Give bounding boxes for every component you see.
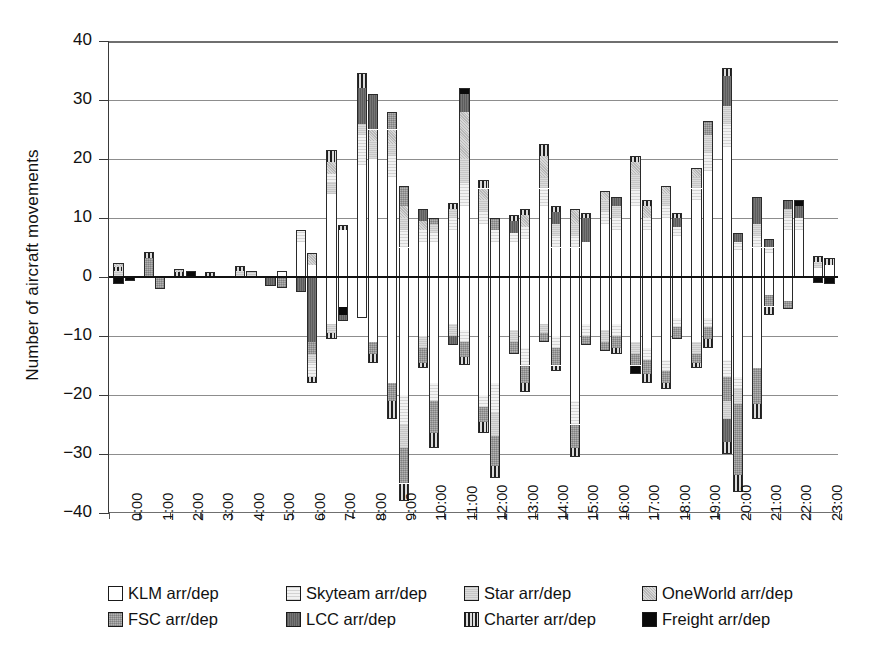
bar-segment <box>570 448 580 457</box>
bar-segment <box>611 277 621 324</box>
legend-item-oneworld[interactable]: OneWorld arr/dep <box>642 584 793 603</box>
bar-segment <box>691 277 701 342</box>
bar-segment <box>113 277 123 284</box>
bar-segment <box>764 307 774 316</box>
bar-segment <box>661 277 671 360</box>
legend-item-freight[interactable]: Freight arr/dep <box>642 610 770 629</box>
x-axis-label: 11:00 <box>464 486 480 521</box>
bar-segment <box>326 324 336 333</box>
bar-segment <box>368 277 378 342</box>
y-axis-label: −20 <box>0 384 92 404</box>
legend-item-lcc[interactable]: LCC arr/dep <box>286 610 396 629</box>
y-axis-label: −30 <box>0 443 92 463</box>
y-tick <box>99 277 109 278</box>
bar-segment <box>418 348 428 363</box>
bar-segment <box>509 342 519 354</box>
bar-segment <box>429 383 439 401</box>
y-axis-label: 40 <box>0 30 92 50</box>
legend-item-star[interactable]: Star arr/dep <box>464 584 571 603</box>
plot-area <box>108 41 838 513</box>
legend-label: Freight arr/dep <box>662 610 770 629</box>
bar-segment <box>551 277 561 336</box>
chart-legend: KLM arr/depSkyteam arr/depStar arr/depOn… <box>108 582 864 634</box>
legend-item-charter[interactable]: Charter arr/dep <box>464 610 596 629</box>
legend-label: Skyteam arr/dep <box>306 584 427 603</box>
bar-segment <box>703 339 713 348</box>
bar-segment <box>144 252 154 258</box>
bar-segment <box>570 277 580 401</box>
x-axis-label: 0:00 <box>129 493 145 521</box>
bar-segment <box>490 436 500 466</box>
bar-segment <box>733 389 743 404</box>
x-axis-label: 10:00 <box>433 485 449 521</box>
x-axis-label: 13:00 <box>525 485 541 521</box>
bar-segment <box>794 230 804 277</box>
bar-segment <box>399 425 409 449</box>
bar-segment <box>326 333 336 339</box>
bar-segment <box>764 295 774 307</box>
bar-segment <box>824 277 834 284</box>
y-tick <box>99 395 109 396</box>
y-tick <box>99 513 109 514</box>
bar-segment <box>144 258 154 277</box>
bar-segment <box>630 342 640 354</box>
bar-segment <box>630 277 640 342</box>
legend-item-fsc[interactable]: FSC arr/dep <box>108 610 218 629</box>
x-axis-label: 8:00 <box>373 493 389 521</box>
x-axis-label: 17:00 <box>646 485 662 521</box>
bar-segment <box>368 342 378 354</box>
y-axis-label: 30 <box>0 89 92 109</box>
bar-segment <box>539 324 549 333</box>
bar-segment <box>307 354 317 363</box>
legend-row: KLM arr/depSkyteam arr/depStar arr/depOn… <box>108 582 864 608</box>
bar-segment <box>520 277 530 348</box>
bar-segment <box>520 366 530 384</box>
bar-segment <box>490 383 500 413</box>
bar-segment <box>581 336 591 345</box>
bar-segment <box>783 301 793 310</box>
bar-segment <box>509 330 519 342</box>
bar-segment <box>642 348 652 360</box>
x-axis-label: 16:00 <box>616 485 632 521</box>
y-tick <box>99 218 109 219</box>
bar-segment <box>551 336 561 348</box>
x-axis-label: 22:00 <box>798 485 814 521</box>
bar-segment <box>630 354 640 366</box>
x-axis-label: 23:00 <box>829 485 845 521</box>
bar-segment <box>459 330 469 342</box>
bar-segment <box>630 366 640 375</box>
bar-segment <box>642 360 652 375</box>
bar-segment <box>338 315 348 321</box>
legend-label: OneWorld arr/dep <box>662 584 793 603</box>
legend-item-klm[interactable]: KLM arr/dep <box>108 584 219 603</box>
bar-segment <box>418 363 428 369</box>
bar-segment <box>277 277 287 288</box>
y-tick <box>99 100 109 101</box>
bar-segment <box>418 277 428 336</box>
bar-segment <box>783 277 793 301</box>
legend-label: FSC arr/dep <box>128 610 218 629</box>
legend-item-skyteam[interactable]: Skyteam arr/dep <box>286 584 427 603</box>
bar-segment <box>672 277 682 318</box>
bar-segment <box>539 277 549 324</box>
x-axis-label: 15:00 <box>585 485 601 521</box>
bar-segment <box>429 401 439 433</box>
x-axis-label: 20:00 <box>738 485 754 521</box>
bar-segment <box>490 413 500 437</box>
bar-segment <box>733 404 743 475</box>
bar-segment <box>691 363 701 369</box>
bar-segment <box>520 348 530 366</box>
bar-segment <box>490 277 500 383</box>
y-axis-label: 20 <box>0 148 92 168</box>
bar-segment <box>794 206 804 218</box>
bar-segment <box>794 200 804 206</box>
y-tick <box>99 336 109 337</box>
bar-segment <box>338 307 348 316</box>
legend-swatch-skyteam-icon <box>286 586 301 601</box>
bar-segment <box>307 377 317 383</box>
x-axis-label: 21:00 <box>768 485 784 521</box>
bar-segment <box>459 357 469 366</box>
bar-segment <box>661 371 671 383</box>
x-axis-label: 5:00 <box>281 493 297 521</box>
bar-segment <box>357 277 367 318</box>
